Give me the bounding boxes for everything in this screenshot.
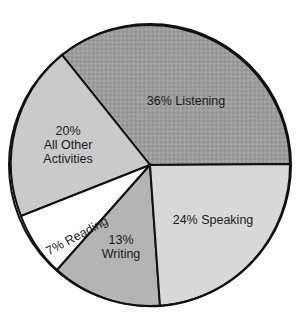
label-other-pct: 20% [55,124,80,138]
label-speaking: 24% Speaking [173,213,254,227]
label-other-line2: Activities [43,152,92,166]
label-listening: 36% Listening [147,94,226,108]
pie-chart: 36% Listening 20% All Other Activities 7… [0,0,298,316]
label-other-line1: All Other [44,138,93,152]
label-writing-pct: 13% [108,233,133,247]
label-writing-name: Writing [102,247,141,261]
slice-speaking [150,164,290,306]
